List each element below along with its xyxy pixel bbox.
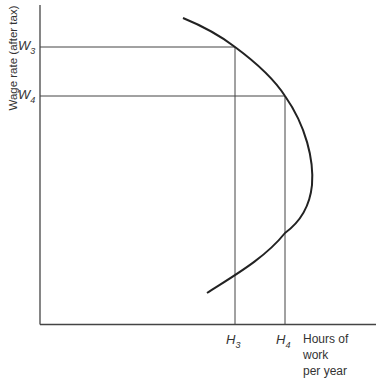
w4-label: W4 <box>18 87 35 105</box>
x-axis-label-line1: Hours of work <box>303 331 377 363</box>
h3-label: H3 <box>226 332 240 350</box>
w3-label: W3 <box>18 38 35 56</box>
labour-supply-curve <box>183 18 312 293</box>
x-axis-label: Hours of work per year <box>303 331 377 379</box>
h4-label: H4 <box>276 332 290 350</box>
x-axis-label-line2: per year <box>303 363 377 379</box>
